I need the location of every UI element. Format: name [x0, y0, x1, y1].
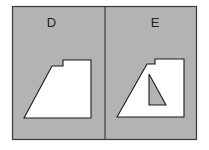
panel-e-label: E [151, 15, 160, 30]
diagram-canvas: D E [0, 0, 209, 150]
panel-d-label: D [47, 15, 56, 30]
